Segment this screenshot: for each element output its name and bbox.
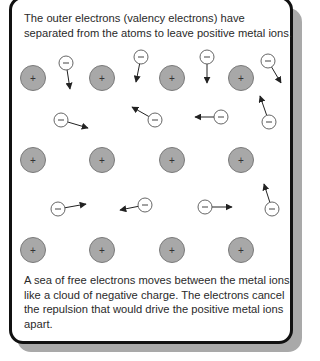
metal-ion: + [160, 66, 185, 91]
metal-ion: + [229, 148, 254, 173]
electron [261, 54, 281, 83]
metal-ion: + [160, 148, 185, 173]
motion-arrow-icon [264, 184, 270, 202]
plus-sign-icon: + [238, 73, 244, 84]
motion-arrow-icon [67, 70, 70, 89]
plus-sign-icon: + [99, 73, 105, 84]
electron [51, 202, 86, 216]
electron [200, 50, 214, 83]
metal-ion: + [229, 238, 254, 263]
electron [54, 113, 88, 128]
motion-arrow-icon [136, 64, 140, 82]
plus-sign-icon: + [30, 245, 36, 256]
electron [134, 50, 148, 82]
metal-ion: + [21, 238, 46, 263]
electron [198, 200, 232, 214]
metal-ion: + [229, 66, 254, 91]
plus-sign-icon: + [99, 245, 105, 256]
metal-ion: + [21, 148, 46, 173]
plus-sign-icon: + [169, 155, 175, 166]
electron [195, 110, 228, 124]
plus-sign-icon: + [30, 73, 36, 84]
electron [120, 198, 152, 212]
motion-arrow-icon [120, 206, 138, 210]
motion-arrow-icon [68, 122, 88, 128]
metal-ions: ++++++++++++ [21, 66, 254, 263]
electron [59, 56, 73, 89]
metal-ion: + [21, 66, 46, 91]
electron [260, 96, 276, 129]
plus-sign-icon: + [169, 245, 175, 256]
plus-sign-icon: + [30, 155, 36, 166]
electron [132, 107, 162, 127]
electron [264, 184, 279, 216]
metal-ion: + [160, 238, 185, 263]
plus-sign-icon: + [169, 73, 175, 84]
motion-arrow-icon [65, 204, 86, 208]
metal-ion: + [90, 148, 115, 173]
plus-sign-icon: + [238, 245, 244, 256]
motion-arrow-icon [272, 67, 281, 83]
metal-ion: + [90, 66, 115, 91]
motion-arrow-icon [260, 96, 267, 115]
metal-ion: + [90, 238, 115, 263]
plus-sign-icon: + [238, 155, 244, 166]
bottom-description: A sea of free electrons moves between th… [24, 273, 294, 331]
plus-sign-icon: + [99, 155, 105, 166]
motion-arrow-icon [132, 107, 149, 117]
